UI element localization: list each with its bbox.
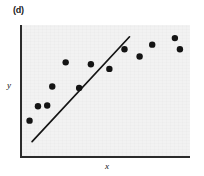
data-point [62,59,68,65]
scatter-points-group [26,35,183,124]
data-point [49,83,55,89]
data-point [121,46,127,52]
data-point [35,103,41,109]
data-point [172,35,178,41]
plot-area [22,25,190,156]
data-point [149,41,155,47]
x-axis-line [20,156,190,158]
x-axis-label: x [105,161,109,172]
panel-label: (d) [13,5,24,16]
data-point [26,117,32,123]
data-point [44,102,50,108]
data-point [88,61,94,67]
data-point [177,46,183,52]
y-axis-line [20,25,22,158]
scatter-plot-figure: (d) y x [0,0,204,176]
data-point [76,85,82,91]
y-axis-label: y [7,80,11,91]
data-point [136,53,142,59]
data-point [106,66,112,72]
data-marks-layer [22,25,190,156]
